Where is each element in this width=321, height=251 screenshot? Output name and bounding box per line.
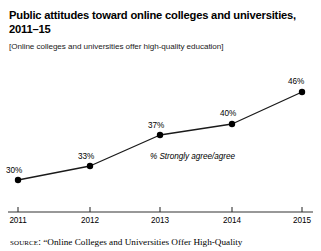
line-chart-svg (0, 0, 321, 232)
data-point-marker (15, 177, 21, 183)
x-axis (8, 207, 313, 212)
x-tick-label-2011: 2011 (0, 216, 38, 225)
data-point-label: 33% (78, 152, 94, 161)
data-point-label: 46% (288, 77, 304, 86)
source-text: “Online Colleges and Universities Offer … (43, 237, 242, 247)
data-markers (15, 89, 305, 183)
series-annotation: % Strongly agree/agree (150, 152, 235, 161)
data-point-label: 40% (220, 109, 236, 118)
plot-area: 30%33%37%40%46% 20112012201320142015 % S… (0, 0, 321, 232)
data-point-label: 37% (148, 121, 164, 130)
data-point-label: 30% (6, 166, 22, 175)
data-point-marker (157, 132, 163, 138)
chart-figure: Public attitudes toward online colleges … (0, 0, 321, 251)
x-tick-label-2015: 2015 (282, 216, 321, 225)
source-note: source: “Online Colleges and Universitie… (10, 236, 315, 249)
data-point-marker (299, 89, 305, 95)
x-tick-label-2013: 2013 (140, 216, 180, 225)
x-tick-label-2014: 2014 (212, 216, 252, 225)
data-point-marker (87, 163, 93, 169)
source-label: source: (10, 236, 41, 247)
x-tick-label-2012: 2012 (70, 216, 110, 225)
data-point-marker (229, 121, 235, 127)
